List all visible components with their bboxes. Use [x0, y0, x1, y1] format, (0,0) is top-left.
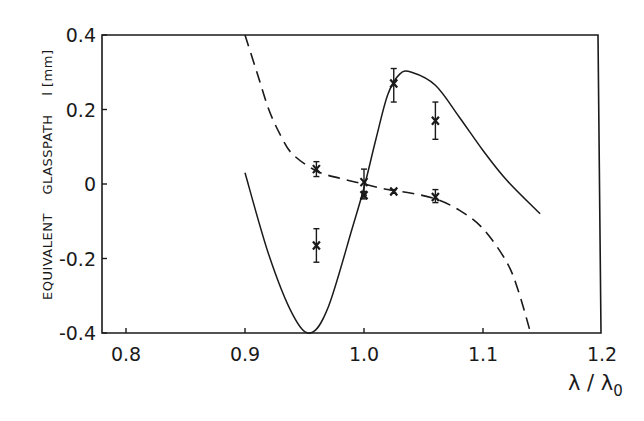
x-tick-label: 1.0: [349, 343, 379, 365]
y-tick-label: 0.4: [66, 24, 96, 46]
data-point: [432, 102, 439, 139]
y-axis-ticks: 0.40.20-0.2-0.4: [59, 24, 107, 344]
data-point: [390, 69, 397, 103]
ylabel-word-3: l [mm]: [40, 50, 55, 96]
y-tick-label: -0.4: [59, 322, 96, 344]
y-tick-label: -0.2: [59, 248, 96, 270]
data-point: [432, 190, 439, 203]
x-tick-label: 0.8: [111, 343, 141, 365]
cross-marker-icon: [390, 187, 397, 195]
solid-theory-curve: [245, 71, 540, 333]
y-axis-title-text: EQUIVALENT GLASSPATH l [mm]: [40, 50, 55, 301]
data-series: [245, 35, 540, 333]
data-point: [313, 229, 320, 263]
ylabel-word-2: GLASSPATH: [40, 114, 55, 194]
x-tick-label: 1.1: [468, 343, 498, 365]
xlabel-main: λ / λ: [568, 371, 613, 395]
data-point: [390, 187, 397, 195]
x-tick-label: 0.9: [230, 343, 260, 365]
xlabel-subscript: 0: [613, 382, 623, 400]
x-axis-title-text: λ / λ0: [568, 371, 623, 400]
plot-frame: [102, 35, 601, 333]
plot-border: [102, 35, 601, 333]
chart: 0.40.20-0.2-0.4 0.80.91.01.11.2 EQUIVALE…: [0, 0, 644, 421]
x-tick-label: 1.2: [587, 343, 617, 365]
dashed-theory-curve: [245, 35, 531, 333]
y-axis-title: EQUIVALENT GLASSPATH l [mm]: [40, 50, 55, 301]
ylabel-word-1: EQUIVALENT: [40, 213, 55, 300]
y-tick-label: 0.2: [66, 99, 96, 121]
y-tick-label: 0: [84, 173, 96, 195]
x-axis-title: λ / λ0: [568, 371, 623, 400]
